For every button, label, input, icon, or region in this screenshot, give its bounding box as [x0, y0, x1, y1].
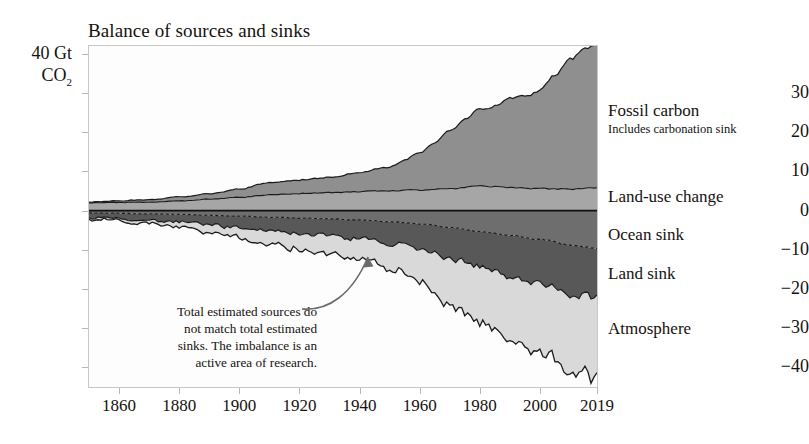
x-tick-label: 1900	[222, 396, 256, 416]
series-sublabel-fossil-carbon: Includes carbonation sink	[608, 122, 736, 137]
x-tick-mark	[119, 388, 120, 394]
x-tick-mark	[299, 388, 300, 394]
y-tick-label: −30	[747, 317, 809, 338]
y-tick-label: 20	[747, 121, 809, 142]
x-tick-mark	[597, 388, 598, 394]
annotation-line-2: sinks. The imbalance is an	[95, 337, 317, 354]
y-tick-label: −20	[747, 278, 809, 299]
x-tick-label: 1880	[162, 396, 196, 416]
x-tick-label: 2000	[523, 396, 557, 416]
annotation-line-1: not match total estimated	[95, 320, 317, 337]
x-tick-label: 1960	[403, 396, 437, 416]
series-label-atmosphere: Atmosphere	[608, 319, 691, 339]
y-tick-label: −10	[747, 239, 809, 260]
x-tick-mark	[420, 388, 421, 394]
x-tick-label: 1940	[343, 396, 377, 416]
series-label-ocean-sink: Ocean sink	[608, 225, 684, 245]
x-tick-mark	[179, 388, 180, 394]
y-tick-label: −40	[747, 356, 809, 377]
x-tick-mark	[540, 388, 541, 394]
series-label-fossil-carbon: Fossil carbon	[608, 101, 699, 121]
annotation-line-3: active area of research.	[95, 354, 317, 371]
x-tick-mark	[239, 388, 240, 394]
y-tick-label: 30	[747, 82, 809, 103]
series-label-land-use-change: Land-use change	[608, 187, 724, 207]
chart-title: Balance of sources and sinks	[88, 20, 310, 42]
y-tick-label: 0	[747, 200, 809, 221]
y-axis-unit-line1: 40 Gt	[0, 42, 72, 64]
imbalance-annotation: Total estimated sources do not match tot…	[95, 303, 317, 371]
x-tick-mark	[480, 388, 481, 394]
series-label-land-sink: Land sink	[608, 264, 676, 284]
annotation-line-0: Total estimated sources do	[95, 303, 317, 320]
y-tick-label: 10	[747, 160, 809, 181]
x-tick-label: 1980	[463, 396, 497, 416]
x-tick-mark	[360, 388, 361, 394]
y-axis-unit-label: 40 Gt CO2	[0, 42, 72, 93]
y-axis-unit-line2: CO2	[0, 64, 72, 93]
x-tick-label: 1860	[102, 396, 136, 416]
x-tick-label: 2019	[580, 396, 614, 416]
chart-figure: Balance of sources and sinks 40 Gt CO2 3…	[0, 0, 809, 444]
x-tick-label: 1920	[282, 396, 316, 416]
